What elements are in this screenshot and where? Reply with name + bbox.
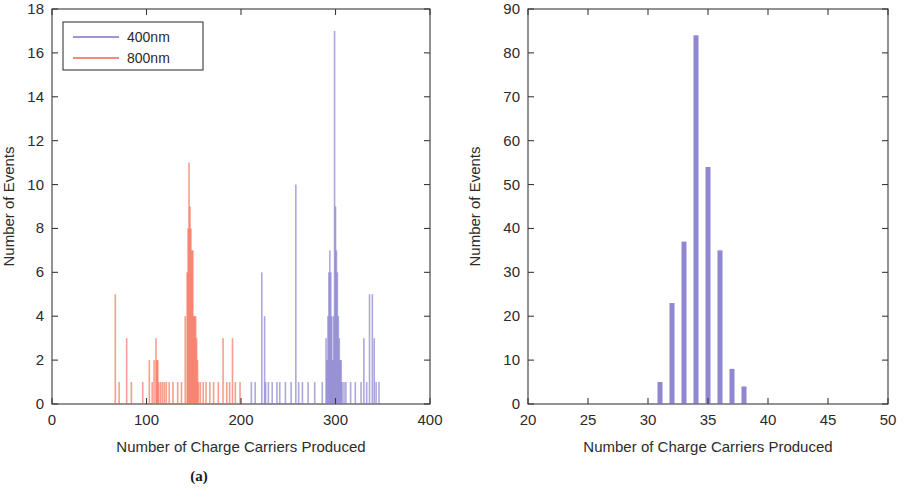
bar — [218, 382, 220, 404]
panel-a: 0100200300400024681012141618Number of Ch… — [0, 0, 460, 502]
bar — [202, 382, 204, 404]
y-tick-label: 70 — [503, 88, 520, 105]
bar — [205, 382, 207, 404]
bar — [268, 382, 270, 404]
bar — [254, 382, 256, 404]
x-tick-label: 20 — [520, 411, 537, 428]
bar — [151, 382, 153, 404]
y-tick-label: 8 — [36, 219, 44, 236]
y-tick-label: 60 — [503, 132, 520, 149]
bar — [307, 382, 309, 404]
y-tick-label: 90 — [503, 0, 520, 17]
x-tick-label: 35 — [700, 411, 717, 428]
series-800nm — [115, 163, 241, 404]
bar — [168, 382, 170, 404]
bar — [373, 338, 375, 404]
y-tick-label: 6 — [36, 263, 44, 280]
bar — [369, 294, 371, 404]
bar — [131, 382, 133, 404]
x-axis-title: Number of Charge Carriers Produced — [583, 438, 832, 455]
bar — [229, 382, 231, 404]
bar — [181, 382, 183, 404]
bar — [160, 382, 162, 404]
bar — [162, 382, 164, 404]
bar — [295, 185, 297, 404]
bar — [375, 382, 377, 404]
figure-root: 0100200300400024681012141618Number of Ch… — [0, 0, 908, 502]
bar — [321, 382, 323, 404]
bar — [118, 382, 120, 404]
x-tick-label: 300 — [323, 411, 348, 428]
x-tick-label: 25 — [580, 411, 597, 428]
bar — [251, 382, 253, 404]
bar — [345, 382, 347, 404]
bar — [718, 250, 723, 404]
y-tick-label: 16 — [27, 44, 44, 61]
bar — [172, 382, 174, 404]
bar — [213, 382, 215, 404]
bar — [706, 167, 711, 404]
histogram-chart-panel-b: 202530354045500102030405060708090Number … — [460, 0, 908, 460]
y-tick-label: 10 — [27, 176, 44, 193]
y-tick-label: 30 — [503, 263, 520, 280]
y-tick-label: 40 — [503, 219, 520, 236]
y-tick-label: 50 — [503, 176, 520, 193]
bar — [149, 360, 151, 404]
bar — [222, 338, 224, 404]
x-tick-label: 400 — [417, 411, 442, 428]
y-tick-label: 14 — [27, 88, 44, 105]
bar — [682, 242, 687, 404]
bar — [343, 382, 345, 404]
bar — [226, 382, 228, 404]
bar — [363, 338, 365, 404]
bar — [290, 382, 292, 404]
bar — [378, 382, 380, 404]
bar — [658, 382, 663, 404]
bar — [366, 382, 368, 404]
legend: 400nm800nm — [63, 22, 203, 70]
series-400nm — [251, 31, 380, 404]
bar — [694, 35, 699, 404]
legend-label-800nm: 800nm — [127, 50, 170, 66]
panel-b: 202530354045500102030405060708090Number … — [460, 0, 908, 502]
bar — [670, 303, 675, 404]
y-axis-title: Number of Events — [466, 146, 483, 266]
bar — [158, 382, 160, 404]
x-tick-label: 50 — [880, 411, 897, 428]
bar — [198, 382, 200, 404]
bar — [115, 294, 117, 404]
bar — [265, 382, 267, 404]
bar — [314, 382, 316, 404]
x-tick-label: 100 — [134, 411, 159, 428]
bar — [271, 382, 273, 404]
y-tick-label: 0 — [36, 395, 44, 412]
y-tick-label: 2 — [36, 351, 44, 368]
bar — [235, 382, 237, 404]
panel-a-caption: (a) — [169, 468, 229, 485]
y-tick-label: 0 — [512, 395, 520, 412]
y-tick-label: 4 — [36, 307, 44, 324]
bar — [730, 369, 735, 404]
bar — [142, 382, 144, 404]
x-axis-title: Number of Charge Carriers Produced — [116, 438, 365, 455]
bar — [153, 360, 155, 404]
x-tick-label: 45 — [820, 411, 837, 428]
bar — [350, 382, 352, 404]
bar — [200, 382, 202, 404]
bar — [285, 382, 287, 404]
legend-label-400nm: 400nm — [127, 29, 170, 45]
bar — [166, 382, 168, 404]
series-400nm — [658, 35, 747, 404]
bar — [298, 382, 300, 404]
bar — [126, 338, 128, 404]
bar — [184, 316, 186, 404]
bar — [177, 382, 179, 404]
bar — [232, 338, 234, 404]
bar — [209, 382, 211, 404]
bar — [261, 272, 263, 404]
y-tick-label: 12 — [27, 132, 44, 149]
y-tick-label: 10 — [503, 351, 520, 368]
bar — [355, 382, 357, 404]
bar — [276, 382, 278, 404]
y-tick-label: 20 — [503, 307, 520, 324]
